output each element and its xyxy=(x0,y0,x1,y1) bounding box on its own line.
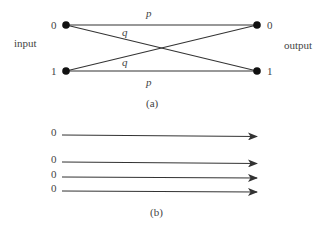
output-label: output xyxy=(284,39,312,51)
output-node-1-label: 1 xyxy=(267,65,273,77)
input-node-0 xyxy=(62,21,70,29)
arrow-1-label: 0 xyxy=(51,153,57,165)
output-node-0-label: 0 xyxy=(267,19,273,31)
output-node-0 xyxy=(253,21,261,29)
edge-label-p-bottom: p xyxy=(145,76,152,88)
arrow-2-label: 0 xyxy=(51,168,57,180)
arrow-2 xyxy=(62,177,257,178)
output-node-1 xyxy=(253,67,261,75)
arrow-3 xyxy=(62,191,257,192)
arrow-0 xyxy=(62,135,257,137)
figure-canvas: input output 0 1 0 1 p q q p (a) 0 0 0 0… xyxy=(0,0,328,229)
caption-b: (b) xyxy=(150,206,163,219)
caption-a: (a) xyxy=(146,97,159,110)
arrow-1 xyxy=(62,162,257,164)
input-node-1-label: 1 xyxy=(51,65,57,77)
input-node-0-label: 0 xyxy=(51,19,57,31)
edge-label-p-top: p xyxy=(145,7,152,19)
input-node-1 xyxy=(62,67,70,75)
arrow-0-label: 0 xyxy=(51,126,57,138)
edge-label-q-lower: q xyxy=(122,56,128,68)
arrow-3-label: 0 xyxy=(51,182,57,194)
arrow-diagram: 0 0 0 0 (b) xyxy=(51,126,257,219)
input-label: input xyxy=(14,37,37,49)
edge-label-q-upper: q xyxy=(122,26,128,38)
channel-diagram: input output 0 1 0 1 p q q p (a) xyxy=(14,7,312,110)
